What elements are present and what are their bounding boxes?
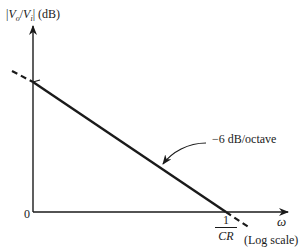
asymptote-line [33,82,226,212]
bode-plot-canvas [0,0,302,252]
x-axis-label: ω [277,215,286,228]
fraction-denominator: CR [214,228,238,242]
corner-frequency-label: 1 CR [214,214,238,242]
vo-symbol: V [8,7,15,21]
slope-annotation-arrow [163,143,206,164]
slope-annotation: −6 dB/octave [212,133,276,145]
fraction-numerator: 1 [214,214,238,227]
unit-label: (dB) [35,7,60,21]
origin-label: 0 [24,208,30,220]
y-axis-label: |Vo/Vi| (dB) [6,8,60,23]
scale-note: (Log scale) [244,234,298,246]
asymptote-dashed-left [12,71,33,82]
